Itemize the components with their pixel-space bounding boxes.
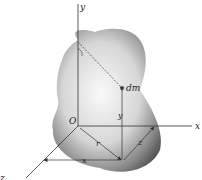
dm-label: dm <box>126 83 140 93</box>
y-distance-label: y <box>117 111 123 120</box>
rigid-body <box>52 29 161 172</box>
x-axis-label: x <box>195 121 200 131</box>
z-axis-label: z <box>0 173 5 180</box>
x-distance-label: x <box>82 156 87 165</box>
y-axis-label: y <box>79 2 86 12</box>
z-distance-label: z <box>137 138 143 147</box>
origin-label: O <box>69 116 77 126</box>
mass-element-point <box>120 86 124 90</box>
mass-moment-diagram: y x O dm y r z x z <box>0 0 202 180</box>
